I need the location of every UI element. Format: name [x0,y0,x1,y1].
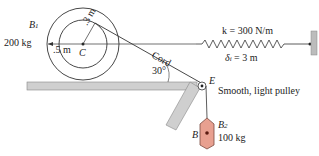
pulley-label: E [209,76,215,86]
pulley-description: Smooth, light pulley [218,86,300,96]
cord-angle-label: 30° [152,66,166,76]
spring-stiffness-label: k = 300 N/m [222,26,273,36]
block-mass-label: 100 kg [218,133,246,143]
hanging-rope [206,86,207,118]
diagram-canvas [0,0,319,156]
block-letter: B [192,130,198,140]
pulley-axle [201,85,204,88]
center-label: C [79,48,86,58]
wall-support [311,31,317,55]
block-center-dot [205,131,209,135]
cord-line [95,23,203,84]
ground-surface [27,82,197,90]
spring-stretch-label: δi = 3 m [225,53,258,63]
wheel-body-label: B1 [29,20,39,30]
spring-icon [196,40,310,48]
outer-radius-label: .5 m [53,45,71,55]
block-body-label: B2 [218,120,228,130]
wheel-mass-label: 200 kg [4,38,32,48]
